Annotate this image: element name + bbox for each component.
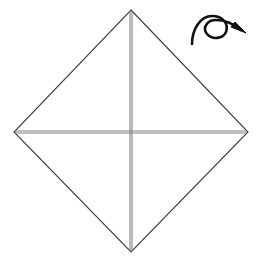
origami-figure: Origami fold diagram — square base with …	[0, 0, 262, 266]
origami-diagram-canvas	[0, 0, 262, 266]
